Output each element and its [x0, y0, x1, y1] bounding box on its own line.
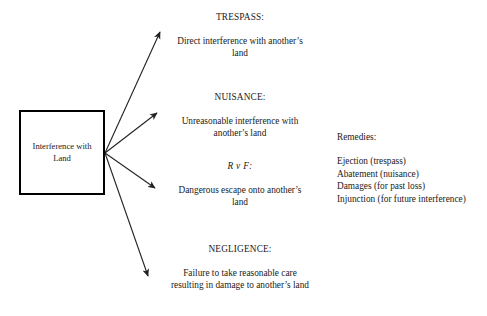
- diagram-canvas: Interference with Land TRESPASS: Direct …: [0, 0, 487, 316]
- remedies-list: Ejection (trespass) Abatement (nuisance)…: [337, 155, 485, 206]
- remedy-item-damages: Damages (for past loss): [337, 180, 485, 193]
- arrow-to-trespass-line: [105, 32, 160, 153]
- spacer: [160, 103, 320, 115]
- remedy-item-injunction: Injunction (for future interference): [337, 193, 485, 206]
- arrow-to-rvf-line: [105, 153, 155, 188]
- arrow-to-nuisance-line: [105, 113, 157, 153]
- source-node-interference-with-land: Interference with Land: [19, 110, 105, 195]
- remedies-panel: Remedies: Ejection (trespass) Abatement …: [337, 131, 485, 206]
- branch-negligence: NEGLIGENCE: Failure to take reasonable c…: [145, 243, 335, 292]
- spacer: [160, 172, 320, 184]
- branch-rvf-body: Dangerous escape onto another’s land: [160, 184, 320, 209]
- branch-nuisance: NUISANCE: Unreasonable interference with…: [160, 91, 320, 140]
- branch-trespass-heading: TRESPASS:: [160, 11, 320, 23]
- source-node-label: Interference with Land: [29, 141, 96, 164]
- branch-rvf: R v F: Dangerous escape onto another’s l…: [160, 160, 320, 209]
- branch-negligence-body: Failure to take reasonable care resultin…: [145, 267, 335, 292]
- spacer: [145, 255, 335, 267]
- branch-rvf-heading: R v F:: [160, 160, 320, 172]
- remedies-title: Remedies:: [337, 131, 485, 143]
- branch-nuisance-heading: NUISANCE:: [160, 91, 320, 103]
- branch-trespass: TRESPASS: Direct interference with anoth…: [160, 11, 320, 60]
- remedy-item-abatement: Abatement (nuisance): [337, 168, 485, 181]
- remedy-item-ejection: Ejection (trespass): [337, 155, 485, 168]
- branch-trespass-body: Direct interference with another’s land: [160, 35, 320, 60]
- spacer: [160, 23, 320, 35]
- arrow-to-negligence-line: [105, 153, 148, 276]
- branch-negligence-heading: NEGLIGENCE:: [145, 243, 335, 255]
- branch-nuisance-body: Unreasonable interference with another’s…: [160, 115, 320, 140]
